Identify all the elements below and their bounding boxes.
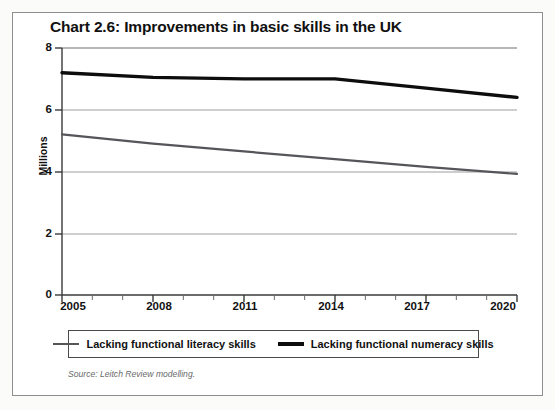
- series-line-lacking-functional-numeracy-skills: [62, 73, 517, 98]
- y-axis-ticks: [55, 48, 62, 295]
- data-series-group: [62, 73, 517, 174]
- source-note: Source: Leitch Review modelling.: [68, 369, 195, 379]
- x-axis-major-ticks: [62, 295, 517, 302]
- figure-root: Chart 2.6: Improvements in basic skills …: [0, 0, 555, 410]
- legend-item-literacy[interactable]: Lacking functional literacy skills: [53, 338, 255, 350]
- series-line-lacking-functional-literacy-skills: [62, 134, 517, 174]
- legend-label-numeracy: Lacking functional numeracy skills: [311, 338, 494, 350]
- x-axis-minor-ticks: [92, 295, 486, 300]
- legend-line-icon-literacy: [53, 343, 79, 345]
- legend-line-icon-numeracy: [278, 342, 304, 346]
- legend-label-literacy: Lacking functional literacy skills: [86, 338, 255, 350]
- legend-item-numeracy[interactable]: Lacking functional numeracy skills: [278, 338, 494, 350]
- chart-legend: Lacking functional literacy skills Lacki…: [68, 330, 479, 358]
